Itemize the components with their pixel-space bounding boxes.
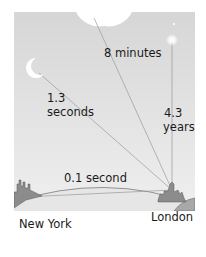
- moon-travel-time-unit: seconds: [47, 106, 94, 119]
- star-travel-time-value: 4.3: [164, 107, 182, 120]
- new-york-label: New York: [19, 218, 72, 231]
- star-travel-time-unit: years: [163, 121, 195, 134]
- moon-travel-time-value: 1.3: [47, 92, 65, 105]
- sun-travel-time-label: 8 minutes: [104, 47, 162, 60]
- star-icon: [166, 34, 178, 46]
- earth-travel-time-label: 0.1 second: [64, 172, 127, 185]
- london-label: London: [151, 211, 193, 224]
- diagram-panel: 8 minutes 1.3 seconds 4.3 years 0.1 seco…: [14, 12, 195, 211]
